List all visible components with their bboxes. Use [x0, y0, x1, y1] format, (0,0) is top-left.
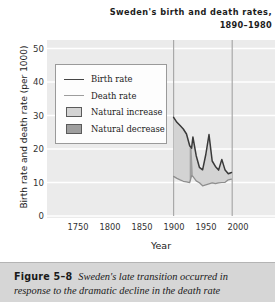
death-rate-line-icon	[63, 90, 85, 101]
x-tick-2000: 2000	[216, 222, 260, 232]
legend-label-natural-increase: Natural increase	[91, 107, 162, 117]
chart-legend: Birth rate Death rate Natural increase N…	[55, 64, 167, 144]
legend-label-death-rate: Death rate	[91, 91, 136, 101]
y-axis-title: Birth rate and death rate (per 1000)	[19, 27, 29, 227]
legend-item-natural-increase: Natural increase	[56, 104, 166, 121]
legend-item-natural-decrease: Natural decrease	[56, 121, 166, 138]
x-axis-title: Year	[47, 240, 275, 251]
legend-item-birth-rate: Birth rate	[56, 71, 166, 88]
birth-rate-line-icon	[63, 74, 85, 85]
caption-figure-number: Figure 5–8	[14, 271, 72, 282]
figure-caption: Figure 5–8Sweden's late transition occur…	[0, 262, 275, 302]
chart-figure: Sweden's birth and death rates, 1890–198…	[0, 0, 275, 262]
legend-item-death-rate: Death rate	[56, 88, 166, 105]
natural-decrease-swatch-icon	[66, 124, 82, 134]
figure-page: Sweden's birth and death rates, 1890–198…	[0, 0, 275, 302]
legend-label-birth-rate: Birth rate	[91, 74, 133, 84]
natural-increase-swatch-icon	[66, 107, 82, 117]
caption-text: Figure 5–8Sweden's late transition occur…	[14, 270, 267, 297]
legend-label-natural-decrease: Natural decrease	[91, 124, 165, 134]
